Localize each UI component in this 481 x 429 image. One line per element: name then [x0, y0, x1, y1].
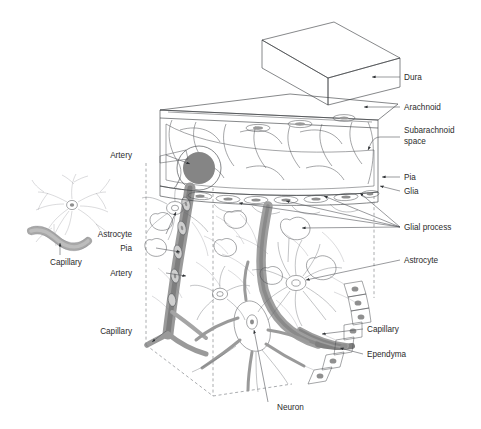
label-capillary-right: Capillary [367, 325, 400, 334]
label-astrocyte-left: Astrocyte [98, 230, 133, 239]
label-neuron: Neuron [277, 403, 304, 412]
astrocyte-capillary-inset: Capillary [31, 174, 112, 267]
label-artery-upper: Artery [110, 151, 133, 160]
label-pia-right: Pia [404, 173, 416, 182]
label-arachnoid: Arachnoid [404, 103, 441, 112]
dura-block [262, 22, 400, 105]
figure-canvas: Capillary Dura Arachnoid Subarachnoid sp… [0, 0, 481, 429]
label-capillary-left: Capillary [100, 327, 133, 336]
astrocyte-cell-lower [190, 266, 250, 320]
label-astrocyte-right: Astrocyte [404, 256, 439, 265]
label-artery-lower: Artery [110, 269, 133, 278]
arachnoid-cells [246, 115, 355, 132]
inset-capillary [31, 226, 88, 251]
pia-cells [188, 190, 379, 204]
ependyma-cells [300, 276, 371, 384]
label-group-right: Dura Arachnoid Subarachnoid space Pia Gl… [367, 73, 455, 359]
label-dura: Dura [404, 73, 422, 82]
label-glial-process: Glial process [404, 223, 451, 232]
label-subarachnoid-space: Subarachnoid [404, 126, 455, 135]
label-group-left: Artery Astrocyte Pia Artery Capillary [98, 151, 133, 336]
label-ependyma: Ependyma [367, 350, 407, 359]
label-subarachnoid-space-line2: space [404, 137, 426, 146]
anatomy-diagram: Capillary Dura Arachnoid Subarachnoid sp… [0, 0, 481, 429]
label-glia: Glia [404, 187, 419, 196]
artery-vessel [147, 146, 221, 354]
label-pia-left: Pia [120, 244, 132, 253]
inset-capillary-label: Capillary [50, 258, 83, 267]
